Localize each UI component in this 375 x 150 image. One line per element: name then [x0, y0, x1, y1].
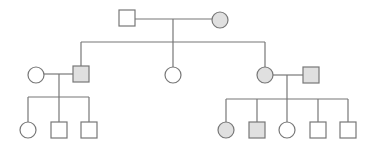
unaffected-male-square-icon	[340, 122, 356, 138]
affected-female-circle-icon	[218, 122, 234, 138]
affected-male-square-icon	[249, 122, 265, 138]
unaffected-female-circle-icon	[279, 122, 295, 138]
affected-male-square-icon	[73, 66, 89, 82]
pedigree-chart	[0, 0, 375, 150]
unaffected-female-circle-icon	[20, 122, 36, 138]
unaffected-female-circle-icon	[165, 67, 181, 83]
affected-male-square-icon	[303, 67, 319, 83]
unaffected-male-square-icon	[51, 122, 67, 138]
unaffected-female-circle-icon	[28, 67, 44, 83]
affected-female-circle-icon	[212, 12, 228, 28]
affected-female-circle-icon	[257, 67, 273, 83]
unaffected-male-square-icon	[310, 122, 326, 138]
unaffected-male-square-icon	[81, 122, 97, 138]
unaffected-male-square-icon	[119, 10, 135, 26]
